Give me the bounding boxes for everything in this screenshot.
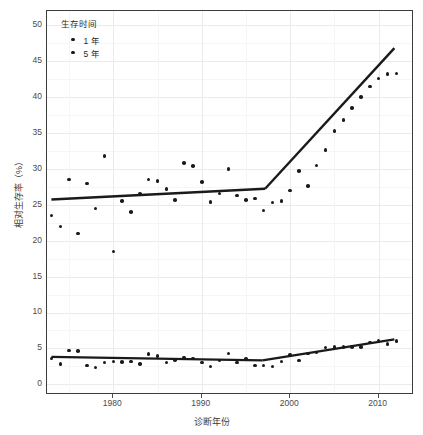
y-tick-label: 30 bbox=[16, 164, 42, 173]
x-tick-mark bbox=[378, 394, 379, 398]
legend-marker-icon bbox=[71, 38, 75, 42]
x-tick-label: 1990 bbox=[181, 398, 221, 408]
legend-item-1[interactable]: 1 年 bbox=[61, 33, 100, 46]
y-tick-label: 50 bbox=[16, 20, 42, 29]
data-point bbox=[138, 362, 142, 366]
x-tick-mark bbox=[112, 394, 113, 398]
data-point bbox=[112, 360, 116, 364]
y-tick-label: 0 bbox=[16, 379, 42, 388]
relative-survival-joinpoint-chart: 相对生存率（%） 诊断年份 05101520253035404550 生存时间 … bbox=[0, 0, 423, 435]
data-point bbox=[76, 349, 80, 353]
data-point bbox=[253, 364, 257, 368]
x-tick-label: 2010 bbox=[358, 398, 398, 408]
data-point bbox=[306, 352, 310, 356]
data-point bbox=[120, 199, 124, 203]
data-point bbox=[359, 95, 363, 99]
data-point bbox=[182, 161, 186, 165]
data-point bbox=[85, 364, 89, 368]
y-tick-label: 25 bbox=[16, 200, 42, 209]
data-point bbox=[209, 200, 213, 204]
y-tick-label: 15 bbox=[16, 272, 42, 281]
data-point bbox=[120, 360, 124, 364]
y-tick-label: 45 bbox=[16, 56, 42, 65]
data-point bbox=[297, 169, 301, 173]
data-point bbox=[59, 362, 63, 366]
data-point bbox=[288, 353, 292, 357]
legend-item-label: 5 年 bbox=[84, 47, 100, 59]
y-axis-tick-labels: 05101520253035404550 bbox=[12, 0, 42, 435]
data-point bbox=[306, 184, 310, 188]
data-point bbox=[191, 357, 195, 361]
y-tick-label: 10 bbox=[16, 307, 42, 316]
legend-item-label: 1 年 bbox=[84, 34, 100, 46]
data-point bbox=[386, 342, 390, 346]
data-point bbox=[368, 85, 372, 89]
x-tick-mark bbox=[289, 394, 290, 398]
data-point bbox=[297, 359, 301, 363]
data-point bbox=[59, 225, 63, 229]
data-point bbox=[191, 164, 195, 168]
x-tick-mark bbox=[201, 394, 202, 398]
data-point bbox=[244, 198, 248, 202]
data-point bbox=[138, 192, 142, 196]
data-point bbox=[350, 106, 354, 110]
y-tick-label: 20 bbox=[16, 236, 42, 245]
data-point bbox=[173, 358, 177, 362]
y-tick-label: 35 bbox=[16, 128, 42, 137]
trend-segment bbox=[262, 339, 394, 360]
data-point bbox=[368, 341, 372, 345]
plot-panel: 生存时间 1 年5 年 bbox=[46, 10, 413, 394]
data-point bbox=[333, 129, 337, 133]
data-point bbox=[350, 345, 354, 349]
data-point bbox=[85, 182, 89, 186]
legend-title: 生存时间 bbox=[61, 17, 100, 29]
legend-marker-icon bbox=[71, 51, 75, 55]
data-point bbox=[342, 345, 346, 349]
trend-segment bbox=[265, 48, 394, 189]
data-point bbox=[253, 197, 257, 201]
data-point bbox=[129, 210, 133, 214]
data-point bbox=[280, 199, 284, 203]
trend-segment bbox=[51, 189, 265, 200]
data-point bbox=[103, 154, 107, 158]
data-point bbox=[244, 357, 248, 361]
data-point bbox=[173, 198, 177, 202]
data-point bbox=[129, 360, 133, 364]
x-tick-label: 2000 bbox=[269, 398, 309, 408]
trend-lines bbox=[47, 11, 412, 393]
x-axis-title: 诊断年份 bbox=[0, 415, 423, 428]
data-point bbox=[165, 187, 169, 191]
legend: 生存时间 1 年5 年 bbox=[61, 17, 100, 59]
data-point bbox=[280, 360, 284, 364]
data-point bbox=[333, 345, 337, 349]
x-tick-label: 1980 bbox=[92, 398, 132, 408]
data-point bbox=[395, 339, 399, 343]
y-tick-label: 40 bbox=[16, 92, 42, 101]
y-tick-label: 5 bbox=[16, 343, 42, 352]
data-point bbox=[227, 167, 231, 171]
data-point bbox=[200, 180, 204, 184]
data-point bbox=[342, 118, 346, 122]
legend-item-2[interactable]: 5 年 bbox=[61, 46, 100, 59]
data-point bbox=[359, 345, 363, 349]
data-point bbox=[288, 189, 292, 193]
legend-items: 1 年5 年 bbox=[61, 33, 100, 59]
data-point bbox=[76, 232, 80, 236]
